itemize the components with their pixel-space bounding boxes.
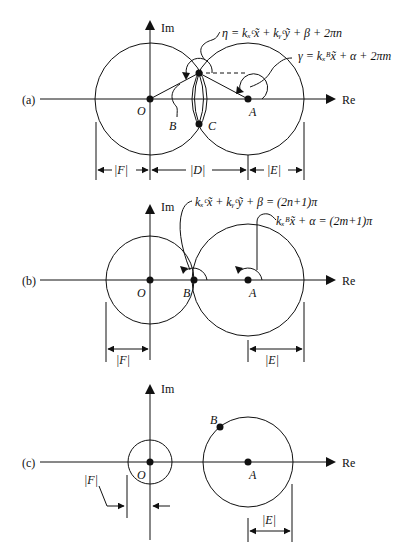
point-b bbox=[191, 277, 198, 284]
label-b: B bbox=[183, 286, 191, 300]
label-a: A bbox=[248, 105, 257, 119]
panel-label-a: (a) bbox=[22, 93, 35, 107]
label-a: A bbox=[248, 286, 257, 300]
point-o bbox=[147, 459, 154, 466]
im-axis-arrow-icon bbox=[145, 20, 155, 30]
eta-leader bbox=[201, 32, 220, 60]
im-axis-arrow-icon bbox=[145, 384, 155, 394]
panel-a: (a) Re Im O A B C bbox=[22, 20, 391, 180]
label-b: B bbox=[169, 119, 177, 133]
point-o bbox=[147, 96, 154, 103]
phasor-diagram: (a) Re Im O A B C bbox=[0, 0, 408, 556]
re-axis-arrow-icon bbox=[326, 275, 336, 285]
dim-e-label: |E| bbox=[265, 353, 279, 367]
re-axis-label: Re bbox=[342, 93, 355, 107]
gamma-equation: kₓᴮx̃ + α = (2m+1)π bbox=[276, 214, 373, 228]
re-axis-label: Re bbox=[342, 456, 355, 470]
panel-b: (b) Re Im O B A kₓᶜx̃ + kᵧᶜỹ + β = (2n+1… bbox=[22, 195, 373, 367]
vector-ba bbox=[199, 73, 248, 99]
gamma-angle-arc bbox=[241, 268, 262, 280]
point-b bbox=[217, 424, 224, 431]
b-leader bbox=[172, 84, 180, 117]
im-axis-label: Im bbox=[161, 200, 175, 214]
gamma-leader bbox=[257, 214, 276, 270]
eta-leader bbox=[180, 201, 192, 270]
panel-c: (c) Re Im O A B |F| |E| bbox=[22, 382, 355, 542]
dim-e-label: |E| bbox=[262, 513, 276, 527]
im-axis-arrow-icon bbox=[145, 204, 155, 214]
label-o: O bbox=[137, 468, 146, 482]
gamma-angle-arc bbox=[240, 74, 268, 99]
point-c bbox=[196, 121, 203, 128]
re-axis-label: Re bbox=[342, 274, 355, 288]
point-a bbox=[245, 459, 252, 466]
dim-f-label: |F| bbox=[116, 353, 130, 367]
panel-label-b: (b) bbox=[22, 274, 36, 288]
dim-d-label: |D| bbox=[190, 163, 205, 177]
dim-f-leader-arrow bbox=[99, 486, 124, 506]
point-o bbox=[147, 277, 154, 284]
panel-label-c: (c) bbox=[22, 456, 35, 470]
im-axis-label: Im bbox=[161, 382, 175, 396]
dim-e-label: |E| bbox=[267, 163, 281, 177]
label-o: O bbox=[137, 286, 146, 300]
eta-equation: η = kₓᶜx̃ + kᵧᶜỹ + β + 2πn bbox=[222, 26, 342, 40]
gamma-equation: γ = kₓᴮx̃ + α + 2πm bbox=[298, 49, 391, 63]
point-a bbox=[245, 277, 252, 284]
label-c: C bbox=[208, 119, 217, 133]
dim-f-label: |F| bbox=[84, 473, 98, 487]
re-axis-arrow-icon bbox=[326, 457, 336, 467]
label-o: O bbox=[137, 104, 146, 118]
label-b: B bbox=[210, 413, 218, 427]
dim-f-label: |F| bbox=[114, 163, 128, 177]
eta-equation: kₓᶜx̃ + kᵧᶜỹ + β = (2n+1)π bbox=[195, 195, 318, 209]
label-a: A bbox=[248, 468, 257, 482]
point-a bbox=[245, 96, 252, 103]
im-axis-label: Im bbox=[161, 21, 175, 35]
re-axis-arrow-icon bbox=[326, 94, 336, 104]
gamma-leader bbox=[250, 58, 292, 87]
point-b bbox=[196, 70, 203, 77]
